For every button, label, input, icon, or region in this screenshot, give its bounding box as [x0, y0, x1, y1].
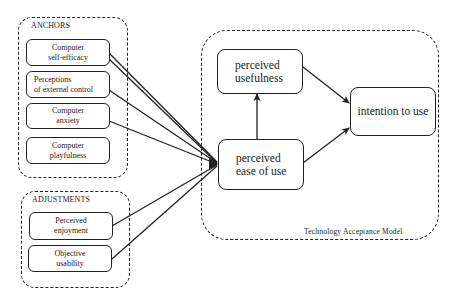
node-perceptions-external-control: Perceptions of external control [26, 71, 110, 98]
adjustments-label: ADJUSTMENTS [32, 195, 90, 204]
tam-label: Technology Acceptance Model [304, 227, 403, 236]
node-computer-self-efficacy: Computer self-efficacy [26, 39, 110, 66]
node-perceived-ease-of-use: perceived ease of use [218, 139, 304, 190]
node-objective-usability: Objective usability [28, 245, 112, 272]
anchors-label: ANCHORS [31, 21, 70, 30]
node-computer-anxiety: Computer anxiety [26, 103, 110, 129]
node-computer-playfulness: Computer playfulness [26, 137, 110, 164]
node-perceived-usefulness: perceived usefulness [217, 49, 303, 94]
node-perceived-enjoyment: Perceived enjoyment [29, 212, 113, 240]
node-intention-to-use: intention to use [350, 87, 436, 136]
